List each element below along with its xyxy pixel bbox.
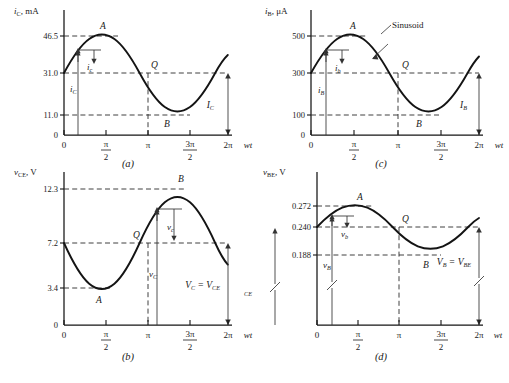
panel-a-point-a: A xyxy=(99,21,106,31)
panel-a-xtick-3halfpi: 3π 2 xyxy=(183,139,197,162)
panel-b-ytick-q: 7.2 xyxy=(47,238,58,248)
panel-b-xtick-halfpi: π 2 xyxy=(101,329,111,352)
panel-b-xtick-pi: π xyxy=(146,330,151,340)
panel-c-total-signal-label: iB xyxy=(318,85,325,96)
svg-text:π: π xyxy=(104,329,109,339)
panel-a-bracket-label: IC xyxy=(206,100,215,111)
svg-text:π: π xyxy=(352,139,357,149)
panel-c-ytick-zero: 0 xyxy=(301,130,305,140)
panel-c-point-q: Q xyxy=(402,60,409,70)
panel-a: iC, mA 46.5 31.0 11.0 0 A B Q ic iC IC 0… xyxy=(0,0,255,170)
panel-a-xaxis-label: wt xyxy=(244,140,253,150)
panel-d-xtick-halfpi: π 2 xyxy=(353,329,363,352)
svg-text:3π: 3π xyxy=(185,139,195,149)
panel-a-ytick-trough: 11.0 xyxy=(43,110,58,120)
panel-b-xaxis-label: wt xyxy=(244,330,253,340)
panel-a-small-signal-label: ic xyxy=(87,62,93,73)
panel-c-point-b: B xyxy=(416,119,422,129)
svg-text:2: 2 xyxy=(188,342,193,352)
panel-c-small-signal-label: ib xyxy=(335,63,341,74)
panel-d-caption: (d) xyxy=(375,351,388,363)
panel-c-ytick-trough: 100 xyxy=(292,110,305,120)
panel-b-ytick-trough: 3.4 xyxy=(47,283,58,293)
panel-d-ytick-peak: 0.272 xyxy=(292,201,311,211)
svg-text:π: π xyxy=(356,329,361,339)
panel-d-xtick-3halfpi: 3π 2 xyxy=(434,329,448,352)
panel-c-sinusoid-leader2 xyxy=(381,25,391,34)
ce-subscript-fragment: CE xyxy=(244,290,252,297)
panel-b-point-b: B xyxy=(178,174,184,184)
panel-d-waveform xyxy=(317,205,479,249)
panel-c-xtick-pi: π xyxy=(396,140,401,150)
panel-b: vCE, V 12.3 7.2 3.4 0 A B Q vc vC VC = V… xyxy=(0,160,255,383)
panel-a-ytick-q: 31.0 xyxy=(43,68,58,78)
panel-c-point-a: A xyxy=(349,21,356,31)
panel-c: iB, μA 500 300 100 0 A B Q Sinusoid ib i… xyxy=(255,0,509,170)
panel-d-point-q: Q xyxy=(402,214,409,224)
panel-b-overflow-label: CE xyxy=(244,288,252,298)
svg-text:2: 2 xyxy=(439,342,444,352)
panel-d-ytick-trough: 0.188 xyxy=(292,250,311,260)
panel-c-xtick-3halfpi: 3π 2 xyxy=(434,139,448,162)
panel-d-yaxis-label: vBE, V xyxy=(263,167,286,178)
panel-a-point-b: B xyxy=(164,119,170,129)
panel-c-xtick-0: 0 xyxy=(309,140,314,150)
panel-a-ytick-peak: 46.5 xyxy=(43,31,58,41)
panel-b-xtick-0: 0 xyxy=(62,330,67,340)
panel-d: vBE, V 0.272 0.240 0.188 A B Q vb vB VB … xyxy=(255,160,509,383)
panel-c-bracket-label: IB xyxy=(459,100,467,111)
svg-text:3π: 3π xyxy=(436,329,446,339)
panel-d-xtick-0: 0 xyxy=(315,330,320,340)
panel-b-xtick-3halfpi: 3π 2 xyxy=(183,329,197,352)
panel-a-point-q: Q xyxy=(151,60,158,70)
panel-d-point-b: B xyxy=(423,260,429,270)
panel-b-point-a: A xyxy=(95,295,102,305)
panel-a-xtick-2pi: 2π xyxy=(223,140,233,150)
svg-text:3π: 3π xyxy=(436,139,446,149)
panel-d-total-signal-label: vB xyxy=(323,260,331,271)
panel-c-yaxis-label: iB, μA xyxy=(265,6,288,17)
panel-d-small-signal-label: vb xyxy=(341,229,348,240)
svg-text:3π: 3π xyxy=(185,329,195,339)
panel-d-xtick-pi: π xyxy=(397,330,402,340)
panel-c-xtick-halfpi: π 2 xyxy=(349,139,359,162)
panel-a-ytick-zero: 0 xyxy=(54,130,58,140)
panel-d-ytick-q: 0.240 xyxy=(292,222,311,232)
panel-b-ytick-zero: 0 xyxy=(54,320,58,330)
panel-d-xaxis-label: wt xyxy=(494,330,503,340)
svg-text:π: π xyxy=(104,139,109,149)
panel-a-xtick-0: 0 xyxy=(62,140,67,150)
panel-b-xtick-2pi: 2π xyxy=(223,330,233,340)
svg-text:2: 2 xyxy=(104,342,109,352)
panel-c-ytick-peak: 500 xyxy=(292,31,305,41)
panel-b-small-signal-label: vc xyxy=(167,222,174,233)
panel-b-waveform xyxy=(64,197,228,289)
panel-c-xtick-2pi: 2π xyxy=(474,140,484,150)
panel-c-xaxis-label: wt xyxy=(495,140,504,150)
svg-text:2: 2 xyxy=(356,342,361,352)
panel-c-ytick-q: 300 xyxy=(292,68,305,78)
panel-d-point-a: A xyxy=(356,192,363,202)
panel-d-bracket-label: VB = VBE xyxy=(437,257,471,268)
panel-a-yaxis-label: iC, mA xyxy=(14,6,39,17)
panel-a-xtick-halfpi: π 2 xyxy=(101,139,111,162)
panel-b-caption: (b) xyxy=(122,351,135,363)
panel-b-bracket-label: VC = VCE xyxy=(185,280,220,291)
panel-a-waveform xyxy=(64,35,228,112)
panel-c-sinusoid-annotation: Sinusoid xyxy=(392,20,424,30)
panel-b-point-q: Q xyxy=(133,230,140,240)
panel-b-yaxis-label: vCE, V xyxy=(14,167,37,178)
panel-a-total-signal-label: iC xyxy=(70,84,78,95)
panel-d-xtick-2pi: 2π xyxy=(474,330,484,340)
panel-a-xtick-pi: π xyxy=(146,140,151,150)
panel-b-ytick-peak: 12.3 xyxy=(43,184,58,194)
